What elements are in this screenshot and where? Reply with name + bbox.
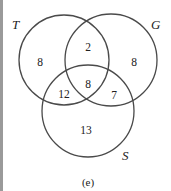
figure-caption: (e) bbox=[82, 176, 95, 189]
set-label-g: G bbox=[151, 17, 161, 32]
venn-diagram-figure: T G S 8 2 8 8 12 7 13 (e) bbox=[0, 0, 171, 191]
region-t-s-only: 12 bbox=[58, 88, 70, 100]
region-t-g-s: 8 bbox=[85, 78, 91, 90]
set-label-t: T bbox=[12, 17, 20, 32]
region-s-only: 13 bbox=[80, 124, 92, 136]
venn-diagram: T G S 8 2 8 8 12 7 13 (e) bbox=[0, 0, 171, 191]
region-g-s-only: 7 bbox=[111, 89, 117, 101]
set-label-s: S bbox=[122, 148, 129, 163]
region-g-only: 8 bbox=[131, 56, 137, 68]
region-t-only: 8 bbox=[37, 56, 43, 68]
region-t-g-only: 2 bbox=[85, 41, 91, 53]
